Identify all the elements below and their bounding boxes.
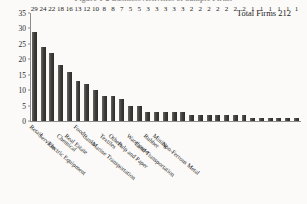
bar: 2 (242, 115, 247, 121)
bar: 2 (207, 115, 212, 121)
bar-value-label: 12 (83, 5, 90, 13)
bar: 12 (84, 84, 89, 121)
bar-slot: 7 (117, 13, 126, 121)
bar: 2 (224, 115, 229, 121)
bar: 1 (294, 118, 299, 121)
bar-value-label: 2 (190, 5, 194, 13)
bar-slot: 1 (248, 13, 257, 121)
bar-slot: 2 (231, 13, 240, 121)
bar-value-label: 2 (234, 5, 238, 13)
bar-slot: 2 (196, 13, 205, 121)
bar: 2 (233, 115, 238, 121)
bar-slot: 2 (205, 13, 214, 121)
bar: 1 (285, 118, 290, 121)
bar-slot: 3 (152, 13, 161, 121)
bar-slot: 1 (257, 13, 266, 121)
bar-value-label: 24 (40, 5, 47, 13)
bar-value-label: 5 (137, 5, 141, 13)
bar-slot: 24 (39, 13, 48, 121)
bar-slot: 12 (82, 13, 91, 121)
bar-value-label: 1 (260, 5, 264, 13)
bar: 22 (49, 53, 54, 121)
bar-value-label: 2 (207, 5, 211, 13)
bar-slot: 3 (161, 13, 170, 121)
bar-slot: 3 (178, 13, 187, 121)
bar-slot: 3 (170, 13, 179, 121)
bar-slot: 22 (47, 13, 56, 121)
bar-value-label: 1 (277, 5, 281, 13)
x-axis-line (30, 121, 301, 122)
bar: 1 (250, 118, 255, 121)
plot-area: 05101520253035 2924221816131210887553333… (30, 13, 301, 121)
bar-slot: 1 (292, 13, 301, 121)
bar-slot: 18 (56, 13, 65, 121)
bar: 3 (145, 112, 150, 121)
x-axis-category-labels: RetailServicesElectric EquipmentChemical… (30, 123, 301, 203)
bar: 3 (154, 112, 159, 121)
bar: 13 (76, 81, 81, 121)
bar-slot: 16 (65, 13, 74, 121)
y-tick-label: 5 (22, 101, 26, 110)
bar-slot: 13 (74, 13, 83, 121)
bar: 2 (215, 115, 220, 121)
bar: 1 (259, 118, 264, 121)
bar: 2 (189, 115, 194, 121)
figure-container: Figure 1-2 Business Activities of Sample… (0, 0, 307, 204)
bar-value-label: 16 (66, 5, 73, 13)
bar-slot: 8 (109, 13, 118, 121)
y-tick-label: 0 (22, 117, 26, 126)
bar-value-label: 2 (199, 5, 203, 13)
bar-slot: 2 (187, 13, 196, 121)
bar-value-label: 3 (155, 5, 159, 13)
bar-value-label: 3 (146, 5, 150, 13)
y-tick-label: 15 (19, 70, 27, 79)
bar: 29 (32, 32, 37, 121)
bar: 1 (276, 118, 281, 121)
bar-value-label: 1 (268, 5, 272, 13)
y-tick-label: 30 (19, 24, 27, 33)
bar: 3 (180, 112, 185, 121)
bar-value-label: 1 (286, 5, 290, 13)
y-tick-label: 25 (19, 39, 27, 48)
bar-value-label: 1 (295, 5, 299, 13)
bar: 8 (102, 96, 107, 121)
bar-slot: 1 (266, 13, 275, 121)
bar-slot: 10 (91, 13, 100, 121)
bar-slot: 3 (144, 13, 153, 121)
bar-value-label: 29 (31, 5, 38, 13)
figure-title: Figure 1-2 Business Activities of Sample… (0, 0, 307, 3)
bar-slot: 8 (100, 13, 109, 121)
bar: 2 (198, 115, 203, 121)
bar-value-label: 3 (164, 5, 168, 13)
bar-value-label: 2 (242, 5, 246, 13)
bar-value-label: 8 (111, 5, 115, 13)
bar-value-label: 10 (92, 5, 99, 13)
bar-value-label: 8 (102, 5, 106, 13)
bar-value-label: 2 (225, 5, 229, 13)
y-tick-label: 20 (19, 55, 27, 64)
bar: 5 (128, 106, 133, 121)
bar-value-label: 22 (48, 5, 55, 13)
bar-value-label: 13 (75, 5, 82, 13)
bar-value-label: 3 (172, 5, 176, 13)
bar: 7 (119, 99, 124, 121)
bar-slot: 2 (222, 13, 231, 121)
bar: 1 (268, 118, 273, 121)
bar: 10 (93, 90, 98, 121)
bar-slot: 29 (30, 13, 39, 121)
bar-slot: 1 (283, 13, 292, 121)
bar: 16 (67, 72, 72, 121)
bar: 24 (41, 47, 46, 121)
bar: 3 (172, 112, 177, 121)
bar-slot: 2 (240, 13, 249, 121)
bar-value-label: 5 (129, 5, 133, 13)
bar: 5 (137, 106, 142, 121)
bar-value-label: 18 (57, 5, 64, 13)
bar-slot: 2 (213, 13, 222, 121)
bar-series: 292422181613121088755333332222222111111 (30, 13, 301, 121)
bar-value-label: 1 (251, 5, 255, 13)
bar-value-label: 3 (181, 5, 185, 13)
y-tick-label: 35 (19, 9, 27, 18)
bar: 18 (58, 65, 63, 121)
bar: 3 (163, 112, 168, 121)
